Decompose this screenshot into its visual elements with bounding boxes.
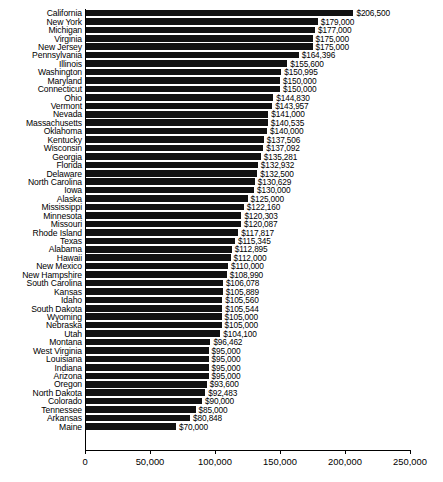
- bar: [85, 94, 273, 101]
- bar-track: $150,000: [85, 85, 443, 93]
- bar: [85, 373, 209, 380]
- bar-track: $90,000: [85, 397, 443, 405]
- bar: [85, 35, 313, 42]
- bar: [85, 187, 254, 194]
- x-axis-line: [85, 450, 410, 451]
- bar: [85, 330, 220, 337]
- bar-value-label: $206,500: [353, 9, 389, 18]
- bar: [85, 280, 223, 287]
- bar-track: $95,000: [85, 372, 443, 380]
- bar: [85, 52, 299, 59]
- bar: [85, 238, 235, 245]
- bar: [85, 69, 281, 76]
- bar: [85, 246, 232, 253]
- bar-track: $104,100: [85, 330, 443, 338]
- bar: [85, 305, 222, 312]
- bar-track: $206,500: [85, 9, 443, 17]
- bar: [85, 18, 318, 25]
- x-tick-mark: [345, 450, 346, 454]
- bar: [85, 322, 222, 329]
- bar: [85, 43, 313, 50]
- bar: [85, 229, 238, 236]
- bar: [85, 119, 268, 126]
- x-tick-mark: [85, 450, 86, 454]
- bar: [85, 339, 210, 346]
- bar: [85, 297, 222, 304]
- bar-track: $95,000: [85, 347, 443, 355]
- bar: [85, 398, 202, 405]
- bar-track: $92,483: [85, 389, 443, 397]
- bar: [85, 415, 190, 422]
- bar: [85, 145, 263, 152]
- bar-track: $93,600: [85, 380, 443, 388]
- y-axis-line: [85, 9, 86, 450]
- bar-track: $105,000: [85, 321, 443, 329]
- bar: [85, 60, 287, 67]
- bar-value-label: $70,000: [176, 422, 208, 431]
- bar-track: $105,889: [85, 287, 443, 295]
- bar-track: $144,830: [85, 93, 443, 101]
- x-tick-mark: [215, 450, 216, 454]
- bar-track: $141,000: [85, 110, 443, 118]
- bar-track: $96,462: [85, 338, 443, 346]
- bar: [85, 347, 209, 354]
- x-tick-label: 150,000: [263, 456, 297, 467]
- bar-track: $108,990: [85, 271, 443, 279]
- bar: [85, 271, 227, 278]
- bar: [85, 195, 248, 202]
- bar-track: $85,000: [85, 406, 443, 414]
- bar-track: $164,396: [85, 51, 443, 59]
- bar: [85, 254, 231, 261]
- bar-track: $95,000: [85, 363, 443, 371]
- bar: [85, 103, 272, 110]
- bar-track: $110,000: [85, 262, 443, 270]
- bar: [85, 423, 176, 430]
- bar-chart: California$206,500New York$179,000Michig…: [0, 0, 443, 482]
- bar-track: $105,560: [85, 296, 443, 304]
- bar: [85, 128, 267, 135]
- x-tick-mark: [150, 450, 151, 454]
- bar-track: $143,957: [85, 102, 443, 110]
- plot-area: California$206,500New York$179,000Michig…: [0, 0, 443, 482]
- bar-track: $106,078: [85, 279, 443, 287]
- bar: [85, 406, 196, 413]
- bar-track: $105,000: [85, 313, 443, 321]
- bar-track: $95,000: [85, 355, 443, 363]
- bar-track: $150,000: [85, 77, 443, 85]
- bar-track: $105,544: [85, 304, 443, 312]
- bar: [85, 10, 353, 17]
- bar-track: $155,600: [85, 60, 443, 68]
- x-tick-label: 0: [82, 456, 87, 467]
- bar: [85, 170, 257, 177]
- bar-track: $150,995: [85, 68, 443, 76]
- bar-track: $140,535: [85, 119, 443, 127]
- bar-track: $177,000: [85, 26, 443, 34]
- bar: [85, 288, 223, 295]
- bar: [85, 364, 209, 371]
- bar: [85, 136, 264, 143]
- bar-rows: California$206,500New York$179,000Michig…: [0, 9, 443, 431]
- bar: [85, 381, 207, 388]
- bar-track: $112,000: [85, 254, 443, 262]
- bar: [85, 153, 261, 160]
- bar-track: $179,000: [85, 17, 443, 25]
- bar-track: $70,000: [85, 422, 443, 430]
- bar: [85, 263, 228, 270]
- x-tick-mark: [410, 450, 411, 454]
- bar: [85, 204, 244, 211]
- bar: [85, 111, 268, 118]
- x-tick-label: 50,000: [136, 456, 165, 467]
- bar-row: Maine$70,000: [0, 422, 443, 430]
- bar: [85, 389, 205, 396]
- x-tick-label: 200,000: [328, 456, 362, 467]
- bar: [85, 27, 315, 34]
- bar: [85, 77, 280, 84]
- bar: [85, 221, 241, 228]
- bar-track: $80,848: [85, 414, 443, 422]
- bar: [85, 162, 258, 169]
- category-label: Maine: [59, 422, 82, 431]
- bar-track: $175,000: [85, 34, 443, 42]
- x-tick-label: 100,000: [198, 456, 232, 467]
- bar: [85, 212, 241, 219]
- x-tick-label: 250,000: [393, 456, 427, 467]
